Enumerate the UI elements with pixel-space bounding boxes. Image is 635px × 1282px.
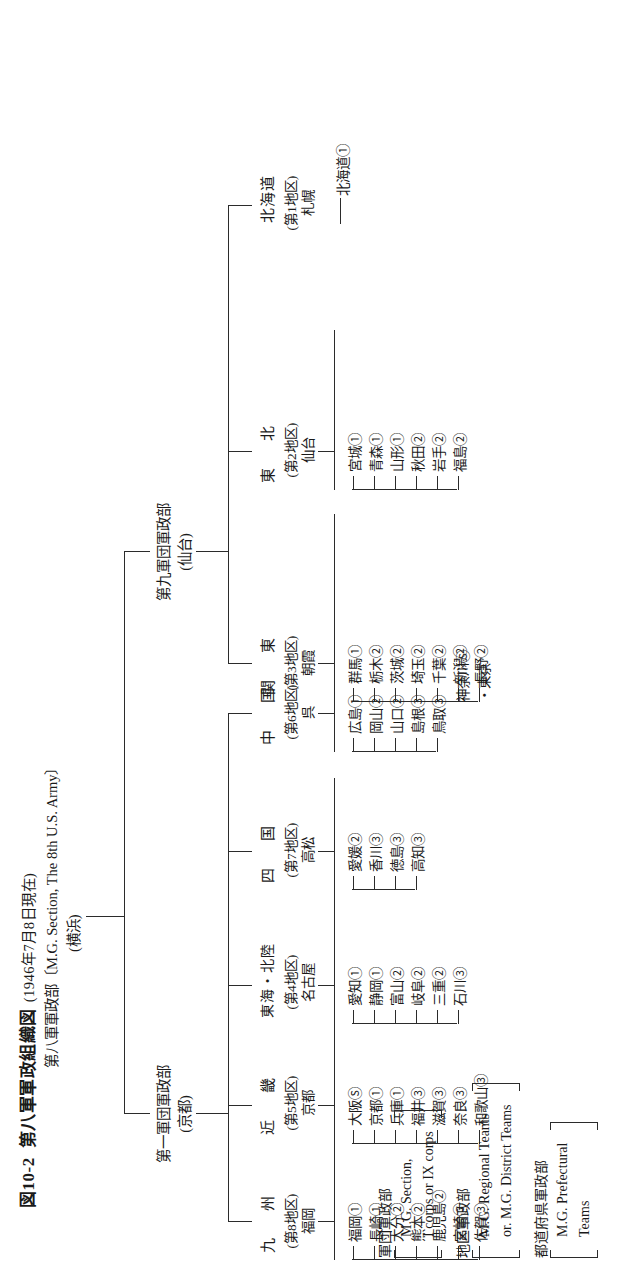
comb-drop-shikoku: [318, 851, 334, 852]
district-label-tokai: (第4地区) 名古屋: [284, 934, 318, 1030]
prefecture-item: 青森①: [365, 433, 386, 490]
connector-stem-icon: [353, 1010, 354, 1024]
legend-jp-district: 地区軍政部: [452, 1188, 472, 1258]
bracket-right-icon: [394, 1110, 442, 1118]
prefecture-label: 神奈川Ⓢ: [456, 650, 471, 702]
bracket-right-icon: [472, 1083, 520, 1091]
prefecture-label: 愛知①: [348, 967, 363, 1006]
prefecture-item: 千葉②: [428, 645, 449, 702]
corps-node-ix: 第九軍団軍政部 (仙台): [152, 484, 194, 620]
district-city-tohoku: 仙台: [301, 404, 318, 496]
figure-title-text: 第八軍軍政組織図: [19, 1008, 38, 1148]
prefecture-label: 愛媛②: [348, 833, 363, 872]
prefecture-item: 宮城①: [344, 433, 365, 490]
prefecture-item: 高知③: [407, 833, 428, 890]
prefecture-label: 富山②: [390, 967, 405, 1006]
prefecture-item: 京都①: [365, 1074, 386, 1144]
ix-bus-drop: [196, 551, 228, 552]
comb-drop-kinki: [318, 1105, 334, 1106]
figure-title-block: 図10-2第八軍軍政組織図(1946年7月8日現在): [14, 873, 39, 1208]
district-number-kyushu: (第8地区): [284, 1174, 301, 1268]
district-label-kanto: (第3地区) 朝霞: [284, 616, 318, 710]
pref-list-kanto-extra: 神奈川Ⓢ・東京: [452, 650, 494, 702]
district-number-shikoku: (第7地区): [284, 804, 301, 896]
prefecture-label: 福岡①: [348, 1203, 363, 1242]
i-branch-kyushu: [228, 1221, 252, 1222]
district-number-tokai: (第4地区): [284, 934, 301, 1030]
comb-bar-shikoku: [334, 778, 335, 890]
bracket-left-icon: [550, 1250, 598, 1258]
connector-stem-icon: [416, 476, 417, 490]
connector-stem-icon: [353, 476, 354, 490]
chart-page: 図10-2第八軍軍政組織図(1946年7月8日現在) 第八軍軍政部〔M.G. S…: [0, 0, 635, 1282]
prefecture-item: 香川③: [365, 833, 386, 890]
prefecture-item: 愛知①: [344, 967, 365, 1024]
prefecture-item: 秋田②: [407, 433, 428, 490]
connector-stem-icon: [374, 1010, 375, 1024]
prefecture-label: 高知③: [411, 833, 426, 872]
corps-ix-location: (仙台): [173, 484, 194, 620]
region-name-tokai: 東海・北陸: [256, 930, 276, 1030]
comb-bar-kanto: [334, 514, 335, 702]
prefecture-item: 福岡①: [344, 1190, 365, 1260]
region-name-kyushu: 九 州: [256, 1182, 277, 1260]
connector-stem-icon: [353, 738, 354, 752]
prefecture-item: 石川③: [449, 967, 470, 1024]
connector-stem-icon: [374, 1130, 375, 1144]
district-city-tokai: 名古屋: [301, 934, 318, 1030]
prefecture-item: 徳島③: [386, 833, 407, 890]
prefecture-item: 群馬①: [344, 645, 365, 702]
connector-stem-icon: [395, 876, 396, 890]
comb-drop-kyushu: [318, 1221, 334, 1222]
district-label-shikoku: (第7地区) 高松: [284, 804, 318, 896]
i-branch-tokai: [228, 985, 252, 986]
i-bus-drop: [196, 1113, 228, 1114]
prefecture-label: 石川③: [453, 967, 468, 1006]
prefecture-label: 三重②: [432, 967, 447, 1006]
bracket-right-icon: [550, 1122, 598, 1130]
prefecture-label: 秋田②: [411, 433, 426, 472]
connector-stem-icon: [458, 1010, 459, 1024]
district-number-kinki: (第5地区): [284, 1056, 301, 1150]
prefecture-item: 鳥取③: [428, 695, 449, 752]
connector-stem-icon: [353, 876, 354, 890]
district-city-shikoku: 高松: [301, 804, 318, 896]
i-bus: [228, 714, 229, 1222]
prefecture-spine: [352, 751, 436, 752]
district-number-hokkaido: (第1地区): [284, 156, 301, 250]
prefecture-label: 宮城①: [348, 433, 363, 472]
prefecture-item: 富山②: [386, 967, 407, 1024]
prefecture-item: 愛媛②: [344, 833, 365, 890]
district-number-tohoku: (第2地区): [284, 404, 301, 496]
legend-en-district-2: or. M.G. District Teams: [496, 1104, 518, 1237]
prefecture-spine: [352, 889, 415, 890]
district-label-tohoku: (第2地区) 仙台: [284, 404, 318, 496]
i-branch-chugoku: [228, 713, 252, 714]
region-name-kinki: 近 畿: [256, 1064, 277, 1142]
connector-stem-icon: [458, 1130, 459, 1144]
region-name-tohoku: 東 北: [256, 412, 277, 490]
bracket-left-icon: [394, 1250, 442, 1258]
connector-stem-icon: [374, 688, 375, 702]
page-title: 図10-2第八軍軍政組織図(1946年7月8日現在): [14, 873, 39, 1208]
connector-stem-icon: [437, 476, 438, 490]
district-label-kyushu: (第8地区) 福岡: [284, 1174, 318, 1268]
figure-date: (1946年7月8日現在): [21, 873, 37, 1003]
prefecture-item: 三重②: [428, 967, 449, 1024]
prefecture-label: 栃木②: [369, 645, 384, 684]
connector-stem-icon: [395, 476, 396, 490]
prefecture-label: 茨城②: [390, 645, 405, 684]
region-name-shikoku: 四 国: [256, 812, 277, 890]
connector-stem-icon: [374, 876, 375, 890]
connector-stem-icon: [353, 688, 354, 702]
i-branch-shikoku: [228, 851, 252, 852]
prefecture-item: 山口②: [386, 695, 407, 752]
district-number-kanto: (第3地区): [284, 616, 301, 710]
corps-i-location: (京都): [173, 1046, 194, 1182]
prefecture-item: 大阪Ⓢ: [344, 1074, 365, 1144]
connector-stem-icon: [416, 738, 417, 752]
connector-stem-icon: [458, 476, 459, 490]
prefecture-item: 広島①: [344, 695, 365, 752]
legend-en-prefectural-2: Teams: [574, 1143, 596, 1237]
legend-bracket-prefectural: M.G. Prefectural Teams: [550, 1122, 598, 1258]
